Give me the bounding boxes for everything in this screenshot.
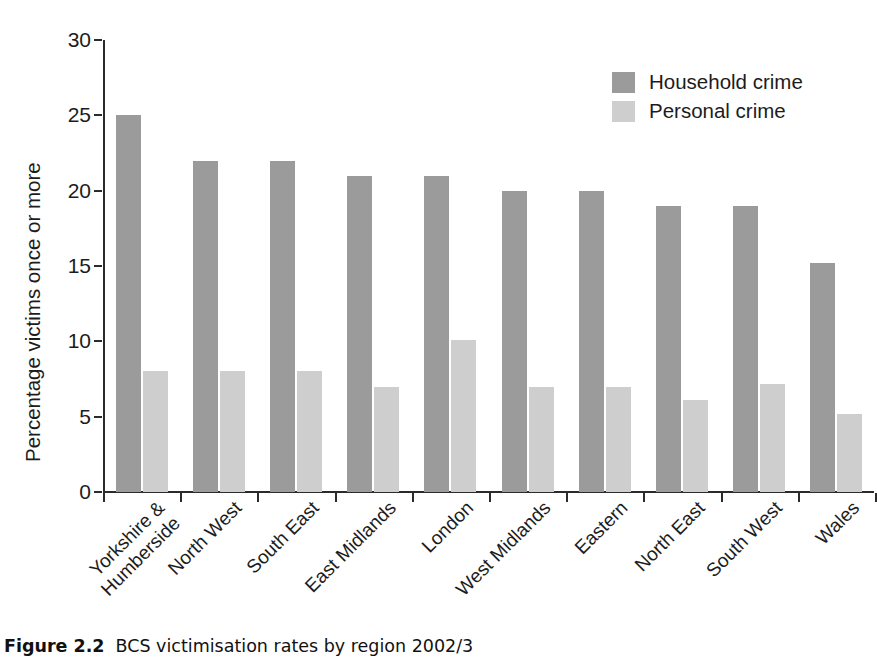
x-axis-label-line: North West xyxy=(164,497,246,579)
legend-item: Household crime xyxy=(612,70,862,94)
bar-group xyxy=(270,40,322,492)
bar-personal-crime xyxy=(760,384,785,492)
y-axis-tick-label: 10 xyxy=(68,330,91,351)
chart-legend: Household crimePersonal crime xyxy=(612,70,862,128)
household-swatch xyxy=(612,72,635,93)
bar-household-crime xyxy=(733,206,758,492)
bar-group xyxy=(347,40,399,492)
bar-personal-crime xyxy=(451,340,476,492)
y-axis-tick-label: 15 xyxy=(68,255,91,276)
y-axis-tick xyxy=(94,190,102,192)
bar-household-crime xyxy=(193,161,218,492)
bar-personal-crime xyxy=(606,387,631,492)
legend-item-label: Personal crime xyxy=(649,99,786,123)
bar-personal-crime xyxy=(220,371,245,492)
y-axis-tick xyxy=(94,114,102,116)
y-axis-title: Percentage victims once or more xyxy=(0,0,21,72)
y-axis-tick xyxy=(94,265,102,267)
y-axis-tick xyxy=(94,340,102,342)
bar-personal-crime xyxy=(837,414,862,492)
x-axis-label-line: South East xyxy=(242,497,323,578)
legend-item-label: Household crime xyxy=(649,70,803,94)
bar-personal-crime xyxy=(297,371,322,492)
bar-household-crime xyxy=(347,176,372,492)
y-axis-tick-label: 20 xyxy=(68,180,91,201)
figure-caption: Figure 2.2BCS victimisation rates by reg… xyxy=(4,636,872,656)
y-axis-tick xyxy=(94,491,102,493)
y-axis-tick-label: 30 xyxy=(68,29,91,50)
bar-group xyxy=(502,40,554,492)
bar-personal-crime xyxy=(143,371,168,492)
bar-group xyxy=(193,40,245,492)
bar-group xyxy=(116,40,168,492)
bar-household-crime xyxy=(424,176,449,492)
x-axis-label-line: Wales xyxy=(812,497,864,549)
x-axis-label-line: Eastern xyxy=(570,497,631,558)
x-axis-label-line: North East xyxy=(631,497,709,575)
x-axis-label-line: South West xyxy=(702,497,786,581)
y-axis-title-text: Percentage victims once or more xyxy=(21,72,45,462)
bar-household-crime xyxy=(116,115,141,492)
bar-household-crime xyxy=(502,191,527,492)
figure-caption-label: Figure 2.2 xyxy=(4,636,105,656)
bar-household-crime xyxy=(579,191,604,492)
y-axis-tick xyxy=(94,39,102,41)
personal-swatch xyxy=(612,101,635,122)
y-axis-tick-label: 5 xyxy=(79,406,91,427)
bar-household-crime xyxy=(656,206,681,492)
bar-household-crime xyxy=(810,263,835,492)
bar-household-crime xyxy=(270,161,295,492)
y-axis-tick-label: 25 xyxy=(68,104,91,125)
figure-caption-text: BCS victimisation rates by region 2002/3 xyxy=(116,636,474,656)
bar-personal-crime xyxy=(683,400,708,492)
bar-group xyxy=(424,40,476,492)
bar-personal-crime xyxy=(374,387,399,492)
bar-personal-crime xyxy=(529,387,554,492)
y-axis-tick xyxy=(94,416,102,418)
x-axis-labels: Yorkshire &HumbersideNorth WestSouth Eas… xyxy=(0,497,875,617)
legend-item: Personal crime xyxy=(612,99,862,123)
x-axis-label-line: London xyxy=(418,497,478,557)
